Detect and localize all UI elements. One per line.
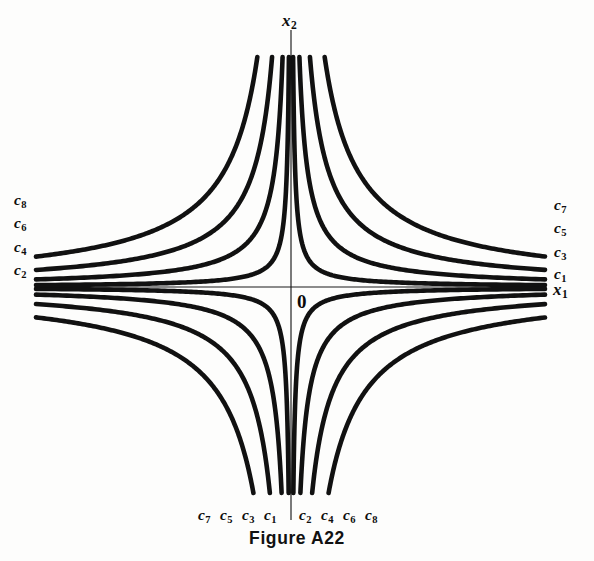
- contour-label-upper-left-1: c6: [14, 215, 27, 234]
- contour-curve-c6-branch-1: [36, 57, 272, 270]
- contour-label-bottom-right-0: c2: [299, 507, 312, 526]
- contour-label-bottom-right-3: c8: [365, 507, 378, 526]
- contour-label-bottom-right-2: c6: [343, 507, 356, 526]
- x-axis-label: x1: [553, 281, 568, 301]
- figure-a22-root: c8 c6 c4 c2 c7 c5 c3 c1 c7 c5 c3 c1 c2 c…: [0, 0, 594, 561]
- figure-caption: Figure A22: [0, 528, 594, 549]
- contour-label-upper-right-2: c3: [554, 244, 567, 263]
- contour-curve-c3-branch-1: [299, 57, 545, 279]
- contour-label-bottom-left-2: c3: [242, 507, 255, 526]
- contour-label-upper-right-1: c5: [554, 220, 567, 239]
- contour-curve-c5-branch-1: [310, 57, 545, 270]
- contour-label-upper-right-0: c7: [554, 197, 567, 216]
- contour-curve-c7-branch-1: [325, 57, 545, 257]
- contour-label-bottom-right-1: c4: [321, 507, 334, 526]
- contour-label-bottom-left-1: c5: [220, 507, 233, 526]
- contour-label-upper-left-2: c4: [14, 239, 27, 258]
- contour-label-bottom-left-0: c7: [198, 507, 211, 526]
- contour-label-bottom-left-3: c1: [264, 507, 277, 526]
- contour-curve-c4-branch-1: [36, 57, 283, 279]
- contour-label-upper-left-0: c8: [14, 192, 27, 211]
- contour-plot-svg: [0, 0, 594, 561]
- contour-curve-c5-branch-2: [36, 304, 270, 493]
- y-axis-label: x2: [282, 12, 297, 32]
- contour-curve-c8-branch-1: [36, 57, 257, 257]
- contour-label-upper-left-3: c2: [14, 262, 27, 281]
- origin-label: 0: [297, 292, 307, 311]
- contour-curve-c6-branch-2: [312, 304, 545, 493]
- contour-curve-c7-branch-2: [36, 317, 253, 493]
- contour-curve-c8-branch-2: [329, 317, 545, 493]
